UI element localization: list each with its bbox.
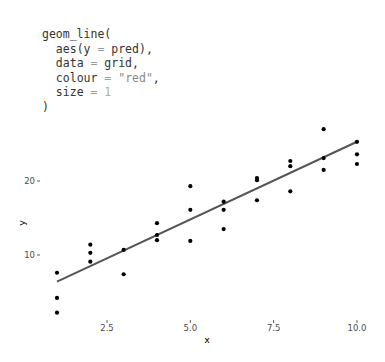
x-tick-label: 10.0 <box>348 323 367 333</box>
data-point <box>322 127 326 131</box>
data-point <box>55 271 59 275</box>
data-point <box>355 140 359 144</box>
x-axis-title: x <box>204 334 210 345</box>
data-point <box>155 221 159 225</box>
data-point <box>88 260 92 264</box>
data-point <box>122 272 126 276</box>
data-point <box>288 189 292 193</box>
data-point <box>55 311 59 315</box>
data-point <box>88 243 92 247</box>
data-point <box>322 168 326 172</box>
x-tick-label: 7.5 <box>267 323 281 333</box>
y-tick-label: 10 <box>24 250 35 260</box>
pred-line <box>57 142 357 282</box>
data-point <box>122 248 126 252</box>
data-point <box>255 178 259 182</box>
data-point <box>55 296 59 300</box>
data-point <box>322 156 326 160</box>
y-tick-label: 20 <box>24 176 35 186</box>
x-tick-label: 5.0 <box>184 323 198 333</box>
data-point <box>255 198 259 202</box>
data-point <box>355 152 359 156</box>
data-point <box>155 233 159 237</box>
y-axis-title: y <box>16 220 27 226</box>
data-point <box>222 200 226 204</box>
data-point <box>88 251 92 255</box>
data-point <box>188 208 192 212</box>
data-point <box>222 227 226 231</box>
data-point <box>188 184 192 188</box>
x-tick-label: 2.5 <box>100 323 114 333</box>
data-point <box>222 208 226 212</box>
data-points <box>55 127 359 315</box>
y-axis: 1020 <box>24 176 40 260</box>
data-point <box>155 238 159 242</box>
x-axis: 2.55.07.510.0 <box>100 320 366 333</box>
data-point <box>288 164 292 168</box>
data-point <box>288 159 292 163</box>
data-point <box>355 162 359 166</box>
scatter-plot: 1020 2.55.07.510.0 x y <box>0 0 385 362</box>
data-point <box>188 239 192 243</box>
prediction-line <box>57 142 357 282</box>
